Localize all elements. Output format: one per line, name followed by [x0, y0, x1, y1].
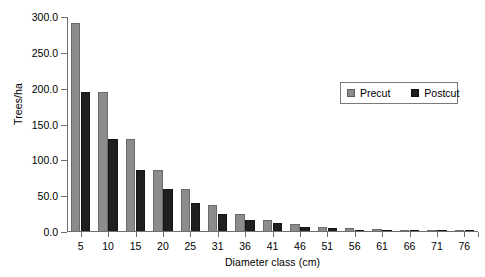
y-axis-title: Trees/ha [12, 64, 24, 144]
y-tick-label: 0.0 [10, 227, 58, 237]
x-tick-mark [382, 232, 383, 237]
y-tick-label-text: 0.0 [14, 227, 58, 237]
bar-precut-36 [235, 214, 245, 232]
bar-precut-15 [126, 139, 136, 232]
y-tick-label-text: 300.0 [14, 12, 58, 22]
bar-postcut-5 [81, 92, 91, 232]
plot-area [67, 17, 478, 232]
x-tick-mark [108, 232, 109, 237]
bar-postcut-20 [163, 189, 173, 232]
x-tick-mark [81, 232, 82, 237]
y-tick-label-text: 150.0 [14, 120, 58, 130]
x-tick-mark [273, 232, 274, 237]
y-tick-label: 250.0 [10, 48, 58, 58]
x-tick-mark [163, 232, 164, 237]
y-tick-label: 300.0 [10, 12, 58, 22]
y-tick-label-text: 50.0 [14, 191, 58, 201]
y-tick-label: 50.0 [10, 191, 58, 201]
bar-precut-25 [181, 189, 191, 232]
bar-postcut-31 [218, 214, 228, 232]
x-axis-end-tick [478, 232, 479, 237]
x-tick-mark [190, 232, 191, 237]
x-tick-label-76: 76 [444, 240, 484, 252]
legend-label-precut: Precut [360, 87, 390, 99]
bar-precut-10 [98, 92, 108, 232]
y-tick-mark [61, 232, 67, 233]
x-tick-mark [218, 232, 219, 237]
chart-legend: Precut Postcut [340, 82, 458, 104]
bar-precut-31 [208, 205, 218, 232]
x-tick-mark [410, 232, 411, 237]
bar-postcut-15 [136, 170, 146, 232]
bar-precut-20 [153, 170, 163, 232]
x-tick-mark [355, 232, 356, 237]
y-tick-label-text: 250.0 [14, 48, 58, 58]
y-tick-label-text: 200.0 [14, 84, 58, 94]
bar-postcut-25 [191, 203, 201, 232]
bar-precut-5 [71, 23, 81, 232]
x-tick-mark [245, 232, 246, 237]
y-tick-label: 200.0 [10, 84, 58, 94]
legend-swatch-precut [347, 89, 355, 97]
x-tick-mark [437, 232, 438, 237]
x-tick-mark [300, 232, 301, 237]
legend-label-postcut: Postcut [424, 87, 459, 99]
x-axis-title: Diameter class (cm) [67, 256, 478, 268]
bar-postcut-10 [108, 139, 118, 232]
y-tick-label-text: 100.0 [14, 155, 58, 165]
x-tick-mark [327, 232, 328, 237]
y-tick-label: 150.0 [10, 120, 58, 130]
x-tick-mark [464, 232, 465, 237]
bar-chart-figure: Trees/ha 0.050.0100.0150.0200.0250.0300.… [0, 0, 485, 277]
legend-swatch-postcut [411, 89, 419, 97]
x-tick-mark [136, 232, 137, 237]
y-tick-label: 100.0 [10, 155, 58, 165]
